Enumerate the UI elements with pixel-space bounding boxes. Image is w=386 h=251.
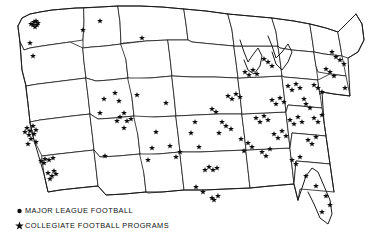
collegiate-marker — [215, 193, 221, 199]
collegiate-marker — [22, 129, 28, 135]
state-outlines — [18, 6, 364, 200]
legend-item-collegiate: COLLEGIATE FOOTBALL PROGRAMS — [14, 219, 214, 232]
legend-item-major-league: MAJOR LEAGUE FOOTBALL — [14, 204, 214, 217]
collegiate-marker — [327, 202, 333, 208]
collegiate-marker — [319, 209, 325, 215]
dot-icon — [14, 205, 25, 216]
collegiate-marker — [323, 193, 329, 199]
football-locations-map: MAJOR LEAGUE FOOTBALL COLLEGIATE FOOTBAL… — [0, 0, 386, 251]
legend-label-major-league: MAJOR LEAGUE FOOTBALL — [25, 205, 133, 216]
legend-label-collegiate: COLLEGIATE FOOTBALL PROGRAMS — [25, 220, 169, 231]
map-legend: MAJOR LEAGUE FOOTBALL COLLEGIATE FOOTBAL… — [14, 204, 214, 232]
collegiate-marker — [25, 141, 31, 147]
star-icon — [14, 220, 25, 231]
